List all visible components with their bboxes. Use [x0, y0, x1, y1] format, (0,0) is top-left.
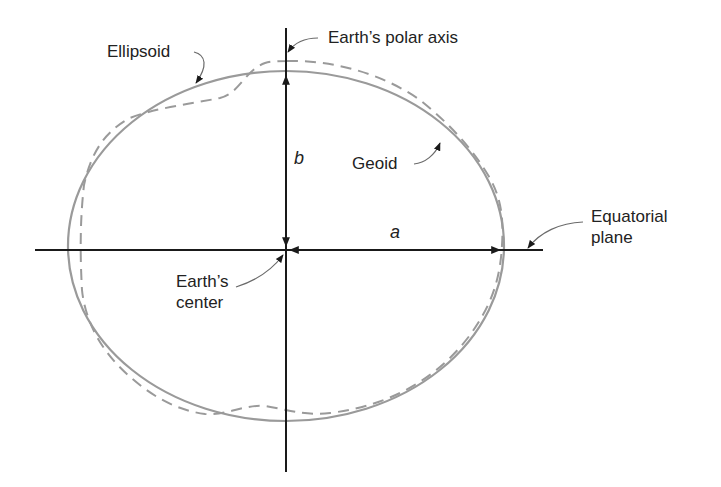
- equatorial-label-line1: Equatorial: [591, 206, 668, 227]
- polar-axis-label: Earth’s polar axis: [328, 27, 458, 48]
- semi-major-label: a: [390, 222, 400, 243]
- center-leader: [236, 255, 283, 287]
- geoid-label: Geoid: [352, 153, 397, 174]
- polar-axis-leader: [288, 38, 318, 52]
- semi-minor-label: b: [294, 148, 304, 169]
- center-label-line2: center: [176, 292, 223, 313]
- equatorial-leader: [528, 222, 583, 248]
- equatorial-label-line2: plane: [591, 227, 633, 248]
- center-label-line1: Earth’s: [176, 271, 229, 292]
- geoid-leader: [414, 143, 440, 164]
- ellipsoid-label: Ellipsoid: [107, 41, 170, 62]
- ellipsoid-leader: [194, 52, 204, 83]
